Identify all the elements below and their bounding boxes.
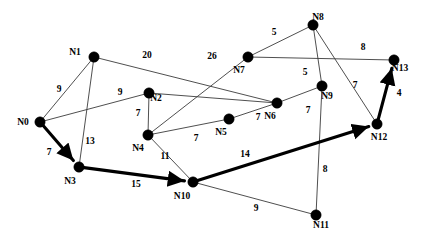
node-label-n2: N2 bbox=[150, 93, 162, 103]
node-dot-n1[interactable] bbox=[89, 52, 99, 62]
graph-edge-n0-n2 bbox=[40, 93, 149, 122]
graph-node-n4[interactable]: N4 bbox=[132, 130, 153, 153]
graph-node-n1[interactable]: N1 bbox=[69, 47, 99, 62]
node-label-n7: N7 bbox=[233, 65, 245, 75]
graph-edge-n4-n10 bbox=[148, 135, 193, 182]
graph-edge-n7-n8 bbox=[248, 25, 313, 57]
edge-weight-n7-n4: 26 bbox=[207, 51, 217, 61]
node-dot-n3[interactable] bbox=[74, 162, 84, 172]
node-label-n9: N9 bbox=[321, 91, 333, 101]
graph-node-n6[interactable]: N6 bbox=[264, 98, 282, 121]
graph-node-n3[interactable]: N3 bbox=[64, 162, 84, 186]
node-label-n12: N12 bbox=[371, 132, 388, 142]
node-label-n5: N5 bbox=[215, 127, 227, 137]
graph-node-n9[interactable]: N9 bbox=[317, 81, 333, 101]
edge-weight-n1-n3: 13 bbox=[85, 136, 95, 146]
graph-diagram-canvas: N0N1N2N3N4N5N6N7N8N9N10N11N12N13 9971320… bbox=[0, 0, 440, 242]
graph-node-n11[interactable]: N11 bbox=[311, 210, 329, 230]
edge-weight-n3-n10: 15 bbox=[131, 179, 141, 189]
edge-weight-n7-n8: 5 bbox=[272, 27, 277, 37]
graph-node-n5[interactable]: N5 bbox=[215, 114, 234, 137]
edge-weight-n0-n3: 7 bbox=[47, 147, 52, 157]
graph-node-n8[interactable]: N8 bbox=[308, 12, 324, 30]
edge-weight-n5-n6: 7 bbox=[256, 112, 261, 122]
edge-weight-n10-n11: 9 bbox=[254, 203, 259, 213]
node-dot-n9[interactable] bbox=[317, 81, 327, 91]
graph-node-n12[interactable]: N12 bbox=[371, 119, 388, 142]
edge-weight-n4-n10: 11 bbox=[161, 151, 170, 161]
edge-weight-n8-n12: 7 bbox=[353, 80, 358, 90]
edge-weight-n0-n2: 9 bbox=[118, 87, 123, 97]
graph-node-n0[interactable]: N0 bbox=[17, 117, 45, 127]
edge-weight-n9-n11: 8 bbox=[323, 164, 328, 174]
edge-weight-n7-n13: 8 bbox=[361, 42, 366, 52]
node-label-n13: N13 bbox=[392, 63, 409, 73]
graph-node-n2[interactable]: N2 bbox=[144, 88, 162, 103]
graph-edge-n8-n9 bbox=[313, 25, 322, 86]
node-dot-n7[interactable] bbox=[243, 52, 253, 62]
edge-weight-n0-n1: 9 bbox=[57, 84, 62, 94]
node-label-n0: N0 bbox=[17, 117, 29, 127]
node-label-n11: N11 bbox=[313, 220, 329, 230]
graph-edge-n2-n4 bbox=[148, 93, 149, 135]
node-label-n10: N10 bbox=[174, 191, 191, 201]
graph-svg: N0N1N2N3N4N5N6N7N8N9N10N11N12N13 9971320… bbox=[0, 0, 440, 242]
graph-edge-n6-n9 bbox=[277, 86, 322, 103]
edge-weight-n10-n12: 14 bbox=[240, 149, 250, 159]
graph-node-n7[interactable]: N7 bbox=[233, 52, 253, 75]
graph-edge-n1-n3 bbox=[79, 57, 94, 167]
edge-weight-n8-n9: 5 bbox=[303, 67, 308, 77]
node-label-n4: N4 bbox=[132, 143, 144, 153]
node-label-n1: N1 bbox=[69, 47, 81, 57]
edge-weight-n2-n4: 7 bbox=[136, 108, 141, 118]
graph-edge-n8-n12 bbox=[313, 25, 377, 124]
edge-weight-n12-n13: 4 bbox=[397, 88, 402, 98]
graph-edge-n7-n13 bbox=[248, 57, 394, 60]
nodes-layer: N0N1N2N3N4N5N6N7N8N9N10N11N12N13 bbox=[17, 12, 408, 230]
edge-weight-n4-n5: 7 bbox=[194, 133, 199, 143]
node-dot-n10[interactable] bbox=[188, 177, 198, 187]
node-label-n3: N3 bbox=[64, 176, 76, 186]
node-dot-n11[interactable] bbox=[311, 210, 321, 220]
edge-weight-n1-n6: 20 bbox=[142, 50, 152, 60]
graph-edge-n12-n13 bbox=[378, 68, 392, 121]
node-label-n6: N6 bbox=[264, 111, 276, 121]
node-dot-n0[interactable] bbox=[35, 117, 45, 127]
node-dot-n6[interactable] bbox=[272, 98, 282, 108]
edge-weight-n6-n9: 7 bbox=[306, 105, 311, 115]
graph-edge-n9-n11 bbox=[316, 86, 322, 215]
graph-edge-n0-n1 bbox=[40, 57, 94, 122]
node-dot-n12[interactable] bbox=[372, 119, 382, 129]
node-label-n8: N8 bbox=[312, 12, 324, 22]
node-dot-n4[interactable] bbox=[143, 130, 153, 140]
graph-node-n13[interactable]: N13 bbox=[389, 55, 409, 73]
node-dot-n5[interactable] bbox=[224, 114, 234, 124]
